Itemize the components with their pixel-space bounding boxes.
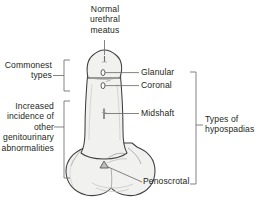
label-penoscrotal: Penoscrotal <box>143 176 189 186</box>
label-coronal: Coronal <box>141 80 172 90</box>
coronal-meatus-marker <box>101 83 105 89</box>
label-commonest-types: Commonest types <box>0 60 52 81</box>
label-types-of-hypospadias: Types of hypospadias <box>205 114 260 135</box>
label-increased-incidence: Increased incidence of other genitourina… <box>0 101 54 153</box>
bracket-commonest-types <box>64 60 70 91</box>
glanular-meatus-marker <box>101 70 105 76</box>
label-normal-urethral-meatus: Normal urethral meatus <box>70 4 140 35</box>
hypospadias-diagram: Normal urethral meatus Commonest types I… <box>0 0 260 207</box>
bracket-types-hypospadias <box>190 72 196 184</box>
label-midshaft: Midshaft <box>141 108 174 118</box>
label-glanular: Glanular <box>141 67 174 77</box>
